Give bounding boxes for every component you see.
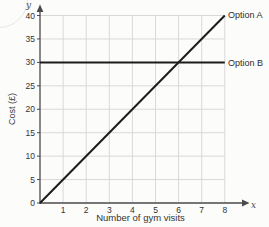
y-tick-label: 0	[30, 198, 35, 208]
series-label-option-a: Option A	[228, 10, 263, 20]
x-axis-letter: x	[251, 200, 256, 210]
y-tick-label: 30	[26, 57, 36, 67]
y-tick-label: 25	[26, 81, 36, 91]
y-tick-label: 15	[26, 128, 36, 138]
y-tick-label: 5	[30, 175, 35, 185]
y-tick-label: 35	[26, 34, 36, 44]
y-tick-label: 20	[26, 104, 36, 114]
gym-cost-line-chart: 051015202530354012345678 Cost (£) Number…	[0, 0, 269, 227]
chart-svg: 051015202530354012345678	[0, 0, 269, 227]
series-label-option-b: Option B	[228, 58, 263, 68]
x-axis-arrow	[242, 200, 250, 207]
x-axis-title: Number of gym visits	[48, 212, 233, 223]
y-tick-label: 40	[26, 11, 36, 21]
y-axis-arrow	[37, 5, 44, 13]
y-axis-letter: y	[26, 0, 31, 10]
y-axis-title: Cost (£)	[6, 86, 18, 132]
y-tick-label: 10	[26, 151, 36, 161]
